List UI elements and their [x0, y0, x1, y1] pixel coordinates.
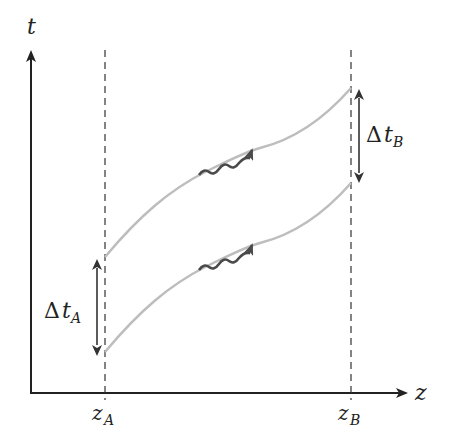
svg-text:A: A: [102, 412, 114, 428]
svg-text:Δ: Δ: [366, 122, 382, 147]
z-a-label: z A: [91, 401, 114, 428]
svg-text:z: z: [337, 401, 349, 425]
delta-t-b-arrow: [354, 89, 364, 183]
lower-worldline: [105, 183, 351, 352]
delta-t-b-label: Δ t B: [366, 122, 403, 150]
diagram-svg: t z z A z B Δ t A Δ t B: [0, 0, 451, 440]
upper-worldline: [105, 88, 351, 257]
delta-t-a-arrow: [92, 259, 102, 356]
spacetime-diagram: t z z A z B Δ t A Δ t B: [0, 0, 451, 440]
svg-text:z: z: [91, 401, 103, 425]
svg-text:B: B: [349, 412, 360, 428]
t-axis-label: t: [27, 14, 36, 39]
svg-text:t: t: [384, 122, 393, 147]
svg-text:Δ: Δ: [44, 298, 60, 323]
svg-text:t: t: [62, 298, 71, 323]
z-axis-label: z: [414, 380, 427, 405]
svg-text:A: A: [69, 310, 81, 326]
svg-text:B: B: [392, 134, 403, 150]
z-b-label: z B: [337, 401, 360, 428]
delta-t-a-label: Δ t A: [44, 298, 81, 326]
